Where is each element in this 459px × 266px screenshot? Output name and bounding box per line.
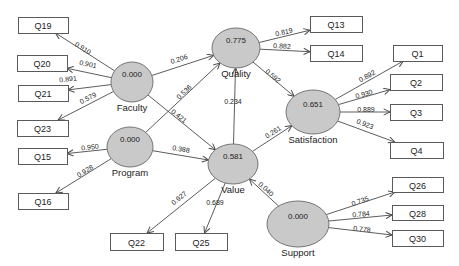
indicator-label: Q16	[34, 197, 51, 207]
path-coefficient-label: 0.592	[264, 68, 282, 85]
latent-node-program: 0.000Program	[107, 127, 153, 178]
latent-ellipse	[212, 28, 260, 68]
path-coefficient-label: 0.889	[357, 106, 375, 113]
indicator-label: Q26	[409, 181, 426, 191]
path-coefficient-label: 0.536	[175, 83, 193, 100]
indicator-box-q30: Q30	[393, 231, 444, 247]
indicator-box-q4: Q4	[391, 143, 444, 159]
indicator-box-q1: Q1	[394, 46, 443, 62]
indicator-box-q2: Q2	[391, 75, 443, 91]
path-coefficient-label: 0.927	[170, 190, 188, 206]
path-coefficient-label: 0.234	[224, 98, 242, 105]
path-arrow-quality-to-satisfaction	[253, 62, 294, 96]
indicator-label: Q21	[34, 89, 51, 99]
indicator-box-q23: Q23	[18, 121, 69, 137]
latent-name-label: Quality	[221, 68, 251, 79]
latent-r2-value: 0.775	[226, 36, 247, 45]
path-coefficient-label: 0.579	[79, 91, 98, 105]
indicator-label: Q2	[410, 78, 422, 88]
latent-node-quality: 0.775Quality	[212, 28, 260, 79]
indicator-label: Q14	[327, 49, 344, 59]
latent-ellipse	[286, 90, 340, 134]
indicator-box-q19: Q19	[19, 18, 69, 34]
latent-r2-value: 0.000	[122, 70, 143, 79]
latent-node-faculty: 0.000Faculty	[111, 62, 153, 113]
indicator-box-q15: Q15	[19, 149, 68, 165]
path-arrow-value-to-q22	[147, 178, 215, 233]
indicator-box-q22: Q22	[111, 234, 164, 251]
latent-name-label: Faculty	[117, 102, 148, 113]
path-coefficient-label: 0.910	[74, 40, 93, 55]
path-coefficient-label: 0.206	[170, 53, 189, 65]
latent-ellipse	[107, 127, 153, 167]
path-coefficient-label: 0.901	[79, 59, 98, 69]
indicator-label: Q13	[327, 20, 344, 30]
indicator-box-q25: Q25	[176, 234, 228, 251]
path-coefficient-label: 0.891	[59, 74, 77, 83]
path-coefficient-label: 0.819	[275, 27, 294, 38]
sem-path-diagram: 0.9100.9010.8910.5790.2060.4210.9500.928…	[0, 0, 459, 266]
indicator-box-q26: Q26	[393, 178, 444, 193]
indicator-box-q21: Q21	[19, 86, 69, 102]
path-coefficient-label: 0.261	[264, 124, 283, 139]
latent-ellipse	[111, 62, 153, 102]
latent-node-support: 0.000Support	[267, 201, 329, 258]
latent-ellipse	[208, 144, 258, 184]
path-arrow-faculty-to-value	[148, 95, 216, 150]
path-coefficient-label: 0.882	[273, 42, 291, 50]
indicator-label: Q25	[192, 238, 209, 248]
path-coefficient-label: 0.388	[172, 144, 191, 154]
latent-name-label: Support	[281, 247, 315, 258]
indicator-box-q14: Q14	[311, 46, 363, 62]
indicator-label: Q23	[34, 124, 51, 134]
path-coefficient-label: 0.689	[206, 199, 224, 206]
path-coefficient-label: 0.930	[355, 88, 374, 100]
indicator-label: Q30	[409, 234, 426, 244]
indicator-label: Q4	[410, 146, 422, 156]
indicator-label: Q20	[33, 59, 50, 69]
indicator-label: Q22	[128, 238, 145, 248]
path-arrow-faculty-to-q21	[68, 85, 111, 90]
latent-r2-value: 0.651	[303, 100, 324, 109]
latent-r2-value: 0.000	[288, 212, 309, 221]
indicator-label: Q1	[411, 49, 423, 59]
indicator-label: Q28	[409, 209, 426, 219]
indicator-box-q13: Q13	[311, 17, 363, 33]
nodes-layer: Q19Q20Q21Q23Q15Q16Q22Q25Q13Q14Q1Q2Q3Q4Q2…	[18, 17, 444, 259]
indicator-label: Q15	[34, 152, 51, 162]
indicator-box-q16: Q16	[19, 194, 69, 210]
latent-name-label: Program	[112, 167, 149, 178]
indicator-label: Q3	[410, 108, 422, 118]
latent-node-value: 0.581Value	[208, 144, 258, 195]
path-coefficient-label: 0.421	[170, 108, 188, 125]
latent-node-satisfaction: 0.651Satisfaction	[286, 90, 340, 145]
sem-diagram-svg: 0.9100.9010.8910.5790.2060.4210.9500.928…	[0, 0, 459, 266]
indicator-box-q28: Q28	[393, 206, 444, 221]
latent-name-label: Satisfaction	[288, 134, 337, 145]
indicator-box-q3: Q3	[391, 105, 443, 121]
indicator-label: Q19	[34, 21, 51, 31]
indicator-box-q20: Q20	[18, 56, 68, 72]
path-arrow-value-to-quality	[234, 68, 236, 144]
latent-name-label: Value	[221, 184, 245, 195]
latent-r2-value: 0.581	[223, 152, 244, 161]
latent-r2-value: 0.000	[120, 135, 141, 144]
latent-ellipse	[267, 201, 329, 247]
